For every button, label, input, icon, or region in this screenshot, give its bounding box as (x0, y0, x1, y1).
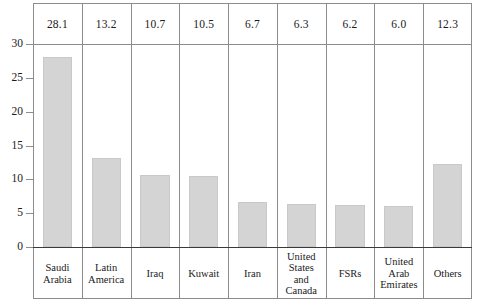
bar-slot (33, 44, 82, 247)
value-label-row: 28.113.210.710.56.76.36.26.012.3 (33, 3, 472, 44)
bar (238, 202, 267, 247)
bar (433, 164, 462, 247)
value-label: 6.0 (374, 3, 423, 44)
category-label: LatinAmerica (82, 248, 131, 299)
y-tick-mark (26, 213, 33, 214)
y-tick-label: 25 (0, 72, 23, 84)
y-tick-mark (26, 247, 33, 248)
category-label-line: Arabia (43, 274, 72, 286)
plot-area (33, 44, 472, 247)
bar (92, 158, 121, 247)
bar-slot (82, 44, 131, 247)
category-label-line: America (88, 274, 124, 286)
bar-slot (326, 44, 375, 247)
value-label: 13.2 (82, 3, 131, 44)
category-label: SaudiArabia (33, 248, 82, 299)
category-label-line: Saudi (43, 262, 72, 274)
category-label-line: Kuwait (188, 268, 219, 280)
bar-slot (179, 44, 228, 247)
category-label-line: United (286, 251, 318, 263)
category-label-line: Emirates (380, 279, 417, 291)
bar (43, 57, 72, 247)
category-label: FSRs (326, 248, 375, 299)
category-label-line: States (286, 262, 318, 274)
bar (287, 204, 316, 247)
category-label-line: FSRs (339, 268, 362, 280)
y-tick-label: 10 (0, 173, 23, 185)
category-label: UnitedArabEmirates (374, 248, 423, 299)
bar (189, 176, 218, 247)
bar-slot (277, 44, 326, 247)
category-label-line: and (286, 274, 318, 286)
bar-chart: 28.113.210.710.56.76.36.26.012.3 0510152… (0, 0, 478, 305)
y-tick-label: 0 (0, 241, 23, 253)
bar-slot (374, 44, 423, 247)
category-label-line: Iraq (147, 268, 164, 280)
y-tick-mark (26, 78, 33, 79)
value-label: 6.7 (228, 3, 277, 44)
category-label: UnitedStatesandCanada (277, 248, 326, 299)
value-label: 6.3 (277, 3, 326, 44)
y-tick-label: 5 (0, 207, 23, 219)
value-label: 10.5 (179, 3, 228, 44)
value-label: 28.1 (33, 3, 82, 44)
bar-slot (131, 44, 180, 247)
y-tick-label: 15 (0, 140, 23, 152)
bar (384, 206, 413, 247)
y-tick-label: 20 (0, 106, 23, 118)
category-label: Others (423, 248, 472, 299)
category-label: Kuwait (179, 248, 228, 299)
y-tick-mark (26, 112, 33, 113)
category-label: Iran (228, 248, 277, 299)
value-label: 6.2 (326, 3, 375, 44)
y-tick-label: 30 (0, 38, 23, 50)
value-label: 10.7 (131, 3, 180, 44)
category-label-line: Latin (88, 262, 124, 274)
y-tick-mark (26, 44, 33, 45)
bar-slot (423, 44, 472, 247)
y-tick-mark (26, 146, 33, 147)
bar (335, 205, 364, 247)
bar-slot (228, 44, 277, 247)
category-label-line: Canada (286, 285, 318, 297)
category-label-line: Arab (380, 268, 417, 280)
category-label-line: United (380, 256, 417, 268)
category-label: Iraq (131, 248, 180, 299)
bar (140, 175, 169, 247)
value-label: 12.3 (423, 3, 472, 44)
category-label-row: SaudiArabiaLatinAmericaIraqKuwaitIranUni… (33, 248, 472, 299)
category-label-line: Others (434, 268, 462, 280)
category-label-line: Iran (244, 268, 261, 280)
y-tick-mark (26, 179, 33, 180)
